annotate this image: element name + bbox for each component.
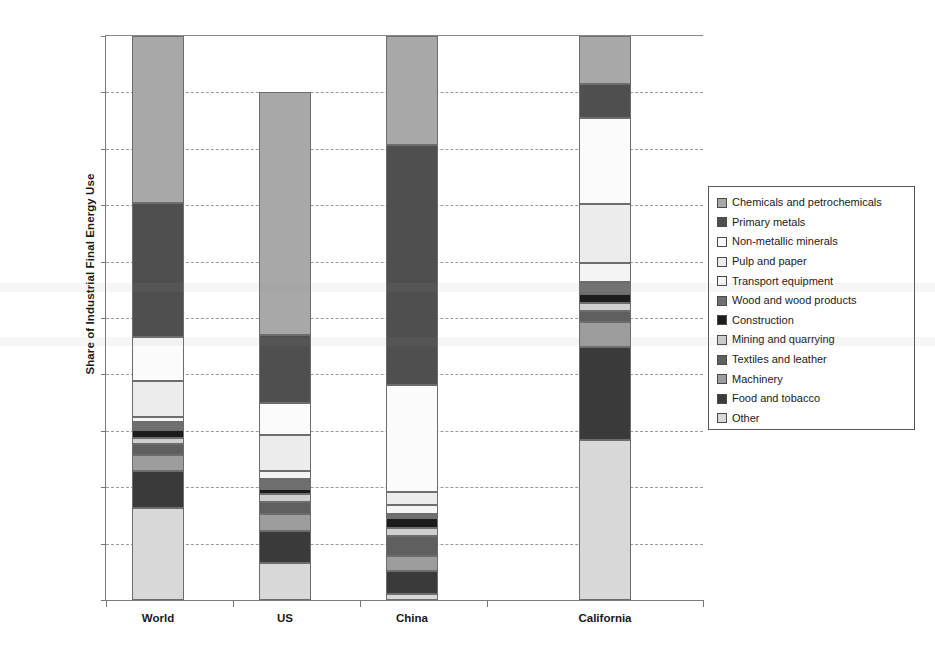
legend-swatch-icon (717, 335, 727, 345)
bar-segment[interactable] (259, 435, 311, 471)
legend-item[interactable]: Food and tobacco (717, 389, 914, 409)
bar-segment[interactable] (579, 204, 631, 263)
bar-california[interactable] (579, 36, 631, 600)
plot-area: WorldUSChinaCalifornia (105, 36, 703, 601)
legend-swatch-icon (717, 315, 727, 325)
bar-segment[interactable] (579, 84, 631, 118)
bar-segment[interactable] (579, 347, 631, 440)
bar-segment[interactable] (579, 294, 631, 302)
bar-segment[interactable] (259, 531, 311, 563)
y-tick-mark (101, 544, 106, 545)
legend-label: Transport equipment (732, 276, 833, 287)
y-tick-mark (101, 318, 106, 319)
legend-swatch-icon (717, 296, 727, 306)
bar-segment[interactable] (579, 282, 631, 294)
bar-segment[interactable] (132, 422, 184, 429)
bar-segment[interactable] (259, 502, 311, 513)
x-axis-label: China (352, 613, 472, 625)
bar-segment[interactable] (386, 505, 438, 514)
legend-label: Mining and quarrying (732, 334, 835, 345)
legend-label: Construction (732, 315, 794, 326)
bar-world[interactable] (132, 36, 184, 600)
x-tick-mark (360, 600, 361, 607)
legend-item[interactable]: Construction (717, 311, 914, 331)
bar-segment[interactable] (579, 118, 631, 204)
y-tick-mark (101, 487, 106, 488)
legend-item[interactable]: Machinery (717, 369, 914, 389)
x-tick-mark (106, 600, 107, 607)
bar-segment[interactable] (386, 528, 438, 535)
bar-segment[interactable] (259, 494, 311, 502)
bar-segment[interactable] (579, 311, 631, 322)
y-tick-mark (101, 149, 106, 150)
bar-us[interactable] (259, 36, 311, 600)
legend-label: Machinery (732, 374, 783, 385)
bar-segment[interactable] (132, 444, 184, 455)
y-tick-mark (101, 92, 106, 93)
y-tick-mark (101, 262, 106, 263)
bar-segment[interactable] (259, 479, 311, 489)
bar-segment[interactable] (579, 36, 631, 84)
x-tick-mark (487, 600, 488, 607)
legend-label: Other (732, 413, 760, 424)
legend-item[interactable]: Pulp and paper (717, 252, 914, 272)
legend-label: Non-metallic minerals (732, 236, 838, 247)
bar-segment[interactable] (579, 263, 631, 282)
legend-swatch-icon (717, 257, 727, 267)
bar-segment[interactable] (132, 508, 184, 600)
bar-segment[interactable] (386, 571, 438, 594)
legend-item[interactable]: Chemicals and petrochemicals (717, 193, 914, 213)
x-tick-mark (233, 600, 234, 607)
y-tick-mark (101, 36, 106, 37)
bar-segment[interactable] (579, 303, 631, 311)
bar-segment[interactable] (132, 455, 184, 471)
bar-segment[interactable] (259, 92, 311, 335)
legend-item[interactable]: Textiles and leather (717, 350, 914, 370)
bar-segment[interactable] (259, 335, 311, 403)
bar-segment[interactable] (386, 556, 438, 571)
x-axis-label: US (225, 613, 345, 625)
bar-segment[interactable] (259, 489, 311, 494)
stacked-bar-chart: Share of Industrial Final Energy Use Wor… (0, 0, 935, 652)
bar-segment[interactable] (386, 514, 438, 517)
bar-segment[interactable] (132, 36, 184, 203)
legend-label: Wood and wood products (732, 295, 857, 306)
bar-segment[interactable] (259, 403, 311, 436)
legend-item[interactable]: Transport equipment (717, 271, 914, 291)
bar-segment[interactable] (132, 471, 184, 508)
bar-china[interactable] (386, 36, 438, 600)
y-tick-mark (101, 205, 106, 206)
bar-segment[interactable] (579, 322, 631, 347)
bar-segment[interactable] (386, 536, 438, 556)
bar-segment[interactable] (386, 518, 438, 529)
legend-item[interactable]: Wood and wood products (717, 291, 914, 311)
bar-segment[interactable] (132, 417, 184, 422)
bar-segment[interactable] (132, 381, 184, 417)
legend-swatch-icon (717, 413, 727, 423)
legend-item[interactable]: Mining and quarrying (717, 330, 914, 350)
bar-segment[interactable] (579, 440, 631, 600)
x-tick-mark (703, 600, 704, 607)
legend-label: Primary metals (732, 217, 805, 228)
legend-swatch-icon (717, 276, 727, 286)
legend-label: Chemicals and petrochemicals (732, 197, 882, 208)
bar-segment[interactable] (386, 36, 438, 145)
bar-segment[interactable] (132, 203, 184, 337)
bar-segment[interactable] (132, 337, 184, 382)
bar-segment[interactable] (132, 430, 184, 438)
chart-legend: Chemicals and petrochemicalsPrimary meta… (708, 186, 915, 430)
y-tick-mark (101, 374, 106, 375)
bar-segment[interactable] (386, 385, 438, 492)
legend-item[interactable]: Primary metals (717, 213, 914, 233)
bar-segment[interactable] (259, 563, 311, 600)
bar-segment[interactable] (386, 145, 438, 385)
bar-segment[interactable] (386, 492, 438, 506)
legend-item[interactable]: Non-metallic minerals (717, 232, 914, 252)
legend-item[interactable]: Other (717, 409, 914, 429)
legend-swatch-icon (717, 374, 727, 384)
bar-segment[interactable] (259, 514, 311, 531)
bar-segment[interactable] (259, 471, 311, 479)
bar-segment[interactable] (386, 594, 438, 600)
legend-swatch-icon (717, 237, 727, 247)
bar-segment[interactable] (132, 438, 184, 444)
